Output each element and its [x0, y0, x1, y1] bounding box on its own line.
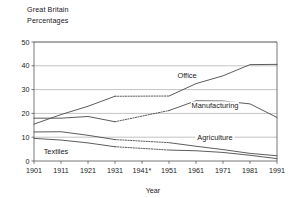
- series-line-textiles: [34, 138, 115, 146]
- x-tick-label: 1961: [188, 166, 204, 175]
- x-tick-label: 1911: [53, 166, 68, 175]
- y-tick-label: 10: [22, 133, 30, 142]
- series-line-dotted-agriculture: [115, 140, 169, 143]
- y-tick-label: 40: [22, 61, 30, 70]
- series-line-manufacturing: [34, 116, 115, 121]
- series-line-agriculture: [34, 132, 115, 140]
- x-tick-label: 1921: [80, 166, 96, 175]
- gridlines-group: [34, 42, 277, 137]
- chart-figure: Great Britain Percentages 01020304050 19…: [0, 0, 295, 198]
- series-label-textiles: Textiles: [44, 147, 69, 156]
- y-tick-label: 30: [22, 85, 30, 94]
- series-label-office: Office: [177, 71, 196, 80]
- series-line-office: [34, 96, 115, 124]
- x-axis-tick-labels: 19011911192119311941*1951196119711981199…: [26, 166, 285, 175]
- plot-frame: [34, 42, 277, 161]
- y-tick-label: 20: [22, 109, 30, 118]
- y-tick-label: 50: [22, 38, 30, 47]
- x-tick-label: 1991: [269, 166, 285, 175]
- x-tick-label: 1941*: [133, 166, 152, 175]
- data-lines-group: [34, 64, 277, 158]
- x-tick-label: 1931: [107, 166, 123, 175]
- x-tick-label: 1901: [26, 166, 42, 175]
- x-tick-label: 1981: [242, 166, 258, 175]
- y-tick-label: 0: [26, 157, 30, 166]
- x-axis-title: Year: [146, 186, 161, 195]
- x-tick-label: 1971: [215, 166, 231, 175]
- series-label-manufacturing: Manufacturing: [192, 101, 239, 110]
- x-tick-label: 1951: [161, 166, 177, 175]
- series-line-agriculture: [169, 143, 277, 156]
- plot-area-wrapper: 01020304050 19011911192119311941*1951196…: [0, 0, 295, 198]
- series-line-dotted-textiles: [115, 147, 169, 150]
- series-label-agriculture: Agriculture: [197, 133, 232, 142]
- y-axis-tick-labels: 01020304050: [22, 38, 30, 166]
- series-line-dotted-manufacturing: [115, 111, 169, 122]
- line-chart-svg: 01020304050 19011911192119311941*1951196…: [0, 0, 295, 198]
- series-line-office: [169, 64, 277, 96]
